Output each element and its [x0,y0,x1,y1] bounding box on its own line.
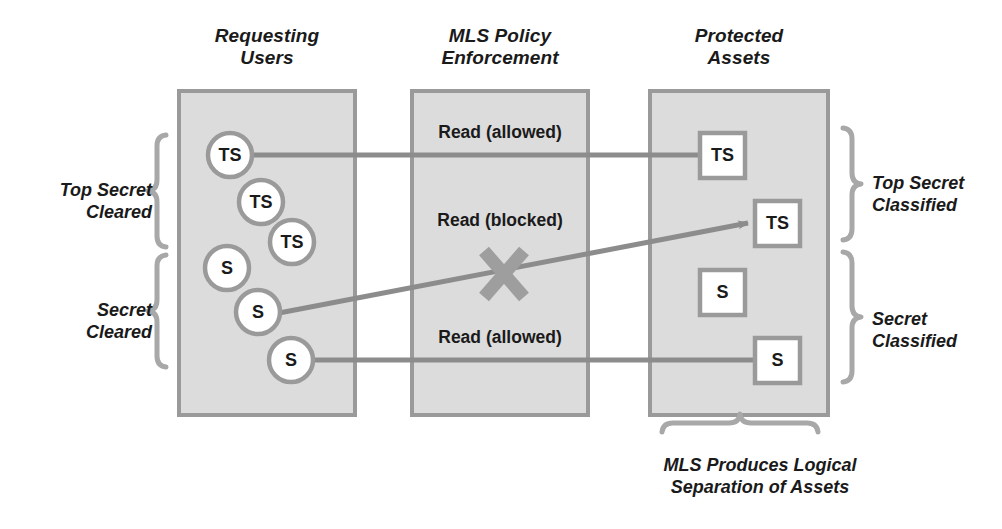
column-header-requesting-users-line2: Users [177,47,357,69]
brace-top-secret-classified [843,128,861,240]
group-label-secret-cleared: Secret Cleared [0,300,152,343]
user-s-2-label: S [233,302,283,323]
policy-label-read-blocked: Read (blocked) [412,211,588,231]
diagram-caption-line1: MLS Produces Logical [620,455,900,477]
brace-secret-classified [843,252,861,382]
asset-s-1-label: S [700,282,745,303]
user-ts-2-label: TS [236,192,286,213]
policy-label-read-allowed-bottom: Read (allowed) [412,328,588,348]
group-label-secret-classified: Secret Classified [872,309,1002,352]
column-header-requesting-users-line1: Requesting [177,25,357,47]
asset-s-2-label: S [755,350,800,371]
diagram-caption: MLS Produces Logical Separation of Asset… [620,455,900,499]
policy-label-read-allowed-top: Read (allowed) [412,123,588,143]
column-header-protected-assets-line1: Protected [649,25,829,47]
column-header-mls-policy-enforcement-line2: Enforcement [410,47,590,69]
group-label-secret-cleared-line1: Secret [0,300,152,322]
diagram-caption-line2: Separation of Assets [620,477,900,499]
column-header-requesting-users: Requesting Users [177,25,357,68]
group-label-top-secret-classified-line1: Top Secret [872,173,1002,195]
group-label-secret-classified-line2: Classified [872,331,1002,353]
diagram-canvas: Requesting Users MLS Policy Enforcement … [0,0,1002,529]
group-label-secret-classified-line1: Secret [872,309,1002,331]
group-label-top-secret-classified: Top Secret Classified [872,173,1002,216]
group-label-top-secret-cleared: Top Secret Cleared [0,180,152,223]
column-header-mls-policy-enforcement-line1: MLS Policy [410,25,590,47]
asset-ts-1-label: TS [700,145,745,166]
group-label-top-secret-classified-line2: Classified [872,195,1002,217]
column-header-protected-assets-line2: Assets [649,47,829,69]
group-label-top-secret-cleared-line1: Top Secret [0,180,152,202]
mls-diagram-svg [0,0,1002,529]
user-ts-1-label: TS [205,145,255,166]
column-header-protected-assets: Protected Assets [649,25,829,68]
column-header-mls-policy-enforcement: MLS Policy Enforcement [410,25,590,68]
group-label-top-secret-cleared-line2: Cleared [0,202,152,224]
user-ts-3-label: TS [267,232,317,253]
user-s-1-label: S [202,258,252,279]
asset-ts-2-label: TS [755,213,800,234]
user-s-3-label: S [266,350,316,371]
group-label-secret-cleared-line2: Cleared [0,322,152,344]
